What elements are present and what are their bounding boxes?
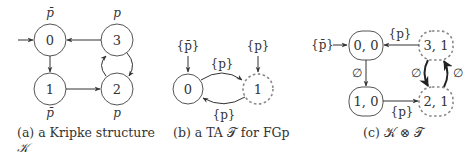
caption-c: (c) 𝒦 ⊗ 𝒯 <box>363 125 426 140</box>
svg-text:1: 1 <box>46 82 54 97</box>
caption-b: (b) a TA 𝒯 for FGp <box>173 125 290 140</box>
svg-text:2: 2 <box>113 82 121 97</box>
edge-1-0 <box>203 97 245 104</box>
edge-21-31 <box>444 61 448 87</box>
svg-text:2, 1: 2, 1 <box>424 94 449 109</box>
prop-label: p̄ <box>46 106 54 120</box>
edge-label: {p} <box>211 57 234 71</box>
edge-31-21 <box>425 60 429 86</box>
svg-text:3: 3 <box>113 33 121 48</box>
svg-text:3, 1: 3, 1 <box>424 38 449 53</box>
edge-label: {p} <box>213 108 236 122</box>
initial-label: {p} <box>247 39 270 53</box>
svg-text:0: 0 <box>46 33 54 48</box>
edge-3-2 <box>127 53 133 76</box>
edge-2-3 <box>102 56 107 76</box>
kripke-node-1: 1 p̄ <box>34 73 66 120</box>
edge-label: ∅ <box>411 66 421 80</box>
panel-b-testing-automaton: 0 {p̄} 1 {p} {p} {p} (b) a TA 𝒯 for FGp <box>173 39 290 140</box>
kripke-node-2: 2 p <box>101 73 133 120</box>
svg-text:1: 1 <box>254 82 262 97</box>
product-node-1-0: 1, 0 <box>349 87 383 116</box>
caption-a-symbol: 𝒦 <box>17 140 33 155</box>
svg-text:0, 0: 0, 0 <box>354 38 379 53</box>
caption-a: (a) a Kripke structure <box>17 125 155 140</box>
svg-text:1, 0: 1, 0 <box>354 94 379 109</box>
product-node-2-1-accepting: 2, 1 <box>419 87 453 116</box>
edge-label: {p} <box>389 27 412 41</box>
prop-label: p̄ <box>46 6 54 20</box>
ta-node-0: 0 {p̄} <box>173 39 203 104</box>
edge-0-1 <box>201 73 242 80</box>
figure-canvas: 0 p̄ 1 p̄ 2 p 3 p (a) a Kripke structure… <box>0 0 476 160</box>
panel-a-kripke-structure: 0 p̄ 1 p̄ 2 p 3 p (a) a Kripke structure… <box>17 6 155 155</box>
edge-label: {p} <box>391 105 414 119</box>
panel-c-product: {p̄} 0, 0 1, 0 2, 1 3, 1 ∅ {p} {p} ∅ ∅ (… <box>311 27 463 140</box>
ta-node-1-accepting: 1 {p} <box>243 39 273 104</box>
product-node-3-1-accepting: 3, 1 <box>419 31 453 60</box>
initial-label: {p̄} <box>311 38 334 52</box>
prop-label: p <box>113 6 121 20</box>
svg-text:0: 0 <box>184 82 192 97</box>
kripke-node-0: 0 p̄ <box>34 6 66 56</box>
edge-label: ∅ <box>352 66 362 80</box>
edge-label: ∅ <box>453 66 463 80</box>
kripke-node-3: 3 p <box>101 6 133 56</box>
prop-label: p <box>113 106 121 120</box>
product-node-0-0: 0, 0 <box>349 31 383 60</box>
initial-label: {p̄} <box>177 39 200 53</box>
